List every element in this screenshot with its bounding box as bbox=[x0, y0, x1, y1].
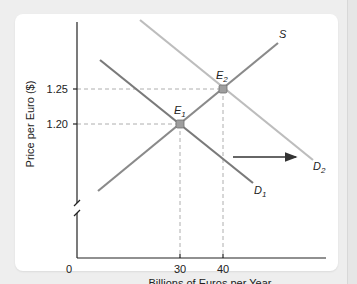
y-tick-label-high: 1.25 bbox=[47, 83, 68, 95]
supply-curve bbox=[98, 43, 278, 191]
d2-label: D2 bbox=[313, 160, 326, 175]
x-axis-title: Billions of Euros per Year bbox=[149, 277, 272, 284]
equilibrium-marker-e1 bbox=[176, 120, 184, 128]
equilibrium-marker-e2 bbox=[219, 85, 227, 93]
d1-label: D1 bbox=[254, 184, 266, 199]
x-axis bbox=[77, 254, 326, 258]
x-tick-label-30: 30 bbox=[174, 263, 186, 275]
guide-lines bbox=[77, 89, 223, 258]
y-axis-title: Price per Euro ($) bbox=[24, 81, 36, 168]
e1-label: E1 bbox=[174, 104, 186, 119]
supply-label: S bbox=[279, 28, 287, 40]
y-axis bbox=[73, 22, 80, 258]
y-tick-label-low: 1.20 bbox=[47, 118, 68, 130]
x-tick-label-origin: 0 bbox=[66, 263, 72, 275]
x-tick-label-40: 40 bbox=[217, 263, 229, 275]
